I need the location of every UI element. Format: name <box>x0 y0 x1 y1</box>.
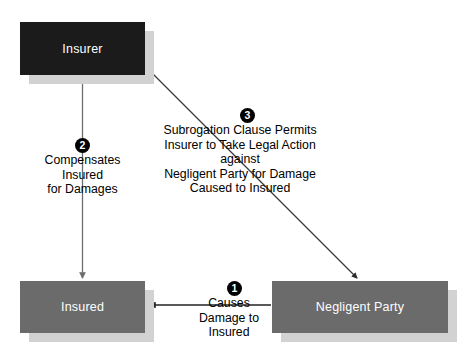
node-negligent-party-label: Negligent Party <box>316 300 404 314</box>
subrogation-diagram: Insurer Insured Negligent Party 1 Causes… <box>0 0 467 360</box>
step-3-label: Subrogation Clause Permits Insurer to Ta… <box>155 123 325 196</box>
node-insured[interactable]: Insured <box>20 281 145 333</box>
step-3-badge: 3 <box>240 108 255 123</box>
node-insurer[interactable]: Insurer <box>20 22 145 75</box>
node-negligent-party[interactable]: Negligent Party <box>272 281 448 333</box>
step-3-number: 3 <box>245 110 251 121</box>
step-1-badge: 1 <box>227 281 242 296</box>
step-2-number: 2 <box>80 140 86 151</box>
node-insured-label: Insured <box>61 300 104 314</box>
step-2-badge: 2 <box>75 138 90 153</box>
step-1-label: Causes Damage to Insured <box>184 296 274 340</box>
step-2-label: Compensates Insured for Damages <box>30 153 135 197</box>
node-insurer-label: Insurer <box>62 42 102 56</box>
step-1-number: 1 <box>232 283 238 294</box>
